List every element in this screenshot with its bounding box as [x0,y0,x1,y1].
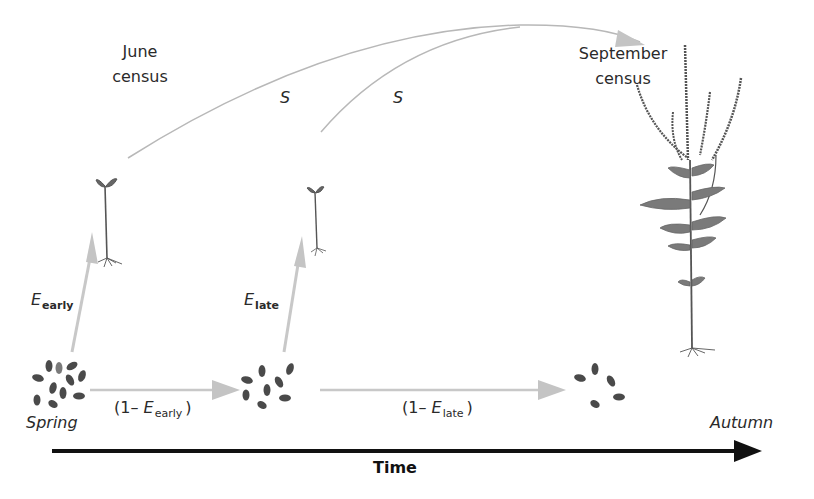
emergence-late-subscript: late [255,299,279,312]
emergence-arrow-early [72,232,98,352]
september-census-label: September census [570,44,676,89]
time-axis-label: Time [373,458,417,478]
non-emergence-early-subscript: early [155,407,183,420]
emergence-late-label: Elate [244,290,279,316]
survival-arrow-early [128,25,640,158]
non-emergence-early-symbol: E [144,398,154,417]
emergence-early-label: Eearly [31,290,73,316]
emergence-early-symbol: E [31,290,41,309]
june-census-line1: June [100,42,180,62]
dormancy-arrow-early [90,380,240,400]
june-census-line2: census [100,67,180,87]
paren-close: ) [467,398,473,417]
june-census-label: June census [100,42,180,87]
dormancy-arrow-late [320,380,566,400]
survival-arrow-late [321,27,520,132]
seed-cluster-spring-icon [31,360,87,410]
seedling-late-icon [307,187,326,256]
autumn-label: Autumn [710,413,773,433]
september-census-line2: census [570,69,676,89]
paren-close: ) [185,398,191,417]
non-emergence-late-subscript: late [443,407,464,420]
emergence-arrow-late [284,236,306,352]
september-census-line1: September [570,44,676,64]
emergence-late-symbol: E [244,290,254,309]
seed-cluster-mid-icon [240,362,295,410]
emergence-early-subscript: early [42,299,73,312]
survival-label-late: S [393,88,403,108]
spring-label: Spring [26,413,78,433]
paren-open: (1– [402,398,432,417]
seedling-early-icon [96,179,122,267]
survival-label-early: S [280,88,290,108]
non-emergence-late-label: (1– Elate) [402,398,473,424]
non-emergence-early-label: (1– Eearly) [114,398,191,424]
mature-plant-icon [637,45,741,357]
paren-open: (1– [114,398,144,417]
non-emergence-late-symbol: E [432,398,442,417]
seed-cluster-autumn-icon [573,363,625,410]
